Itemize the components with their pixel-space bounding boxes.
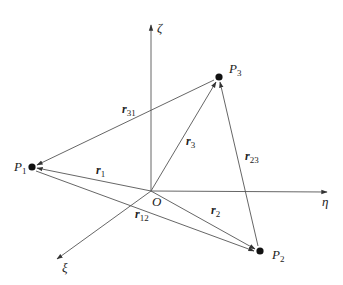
three-body-vector-diagram: ζ η ξ O P1 P2 P3 r31 r3 r23 r1 r12 r2: [0, 0, 343, 285]
point-p3-label: P3: [228, 61, 242, 78]
point-masses: [28, 73, 263, 254]
point-p1-dot: [28, 163, 35, 170]
point-p1-label: P1: [13, 159, 26, 176]
eta-axis: [151, 191, 327, 192]
vector-r3: [151, 82, 216, 191]
vector-r31-label: r31: [122, 102, 136, 118]
eta-axis-label: η: [322, 194, 328, 209]
xi-axis: [57, 191, 151, 259]
vector-r2-label: r2: [211, 203, 220, 219]
vector-r31: [37, 80, 214, 165]
position-vectors: [37, 82, 255, 249]
relative-vectors: [36, 80, 258, 251]
zeta-axis-label: ζ: [157, 20, 163, 35]
vector-r2: [151, 191, 255, 249]
vector-r1: [37, 168, 151, 191]
xi-axis-label: ξ: [62, 260, 68, 275]
vector-r3-label: r3: [186, 134, 196, 150]
vector-r12: [36, 171, 254, 251]
origin-label: O: [152, 194, 162, 209]
point-p2-dot: [256, 247, 263, 254]
point-p2-label: P2: [271, 247, 284, 264]
vector-r23-label: r23: [245, 149, 259, 165]
point-p3-dot: [215, 73, 222, 80]
vector-r1-label: r1: [96, 163, 105, 179]
